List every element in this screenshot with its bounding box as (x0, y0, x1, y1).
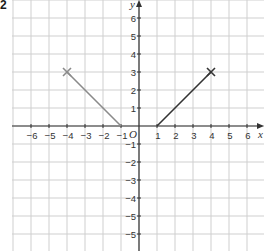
y-tick-label: −4 (125, 193, 136, 204)
y-axis-label: y (129, 0, 135, 10)
y-tick-label: 2 (131, 85, 136, 96)
y-tick-label: 6 (131, 13, 136, 24)
x-axis-label: x (257, 128, 263, 140)
y-tick-label: 3 (131, 67, 136, 78)
series-line-left (67, 72, 121, 126)
x-tick-label: 6 (245, 130, 250, 141)
series-line-right (157, 72, 211, 126)
y-tick-label: −1 (125, 139, 136, 150)
x-tick-label: −6 (27, 130, 38, 141)
x-tick-label: −5 (45, 130, 56, 141)
x-tick-label: −3 (81, 130, 92, 141)
coordinate-grid-chart: xyO−6−5−4−3−2−1123456654321−1−2−3−4−5−5 (0, 0, 264, 251)
y-tick-label: −5 (125, 229, 136, 240)
x-tick-label: −4 (63, 130, 74, 141)
x-tick-label: 4 (209, 130, 214, 141)
x-tick-label: −2 (99, 130, 110, 141)
x-tick-label: 1 (155, 130, 160, 141)
y-tick-label: −2 (125, 157, 136, 168)
y-axis-arrow-icon (136, 0, 142, 7)
y-tick-label: −3 (125, 175, 136, 186)
y-tick-label: 5 (131, 31, 136, 42)
y-tick-label: 1 (131, 103, 136, 114)
axes (12, 0, 264, 251)
x-tick-label: 3 (191, 130, 196, 141)
x-tick-label: 2 (173, 130, 178, 141)
y-tick-label: 4 (131, 49, 136, 60)
x-tick-label: 5 (227, 130, 232, 141)
y-tick-label: −5 (125, 211, 136, 222)
